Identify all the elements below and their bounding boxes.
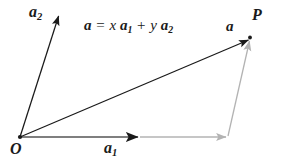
label-a1-base: a <box>104 139 112 156</box>
vector-decomposition-figure: a = x a1 + y a2 a2 a1 a P O <box>0 0 284 167</box>
label-a2-base: a <box>29 3 37 20</box>
equation-scalar-x: x <box>109 17 116 33</box>
equation-vector-a2-subscript: 2 <box>168 24 173 35</box>
equation-scalar-y: y <box>150 17 157 33</box>
equation-lhs: a <box>84 17 92 33</box>
equation-vector-a1: a1 <box>120 17 132 33</box>
label-origin-o: O <box>10 141 22 157</box>
origin-point-dot <box>18 135 22 139</box>
equation-equals-sign: = <box>95 17 105 33</box>
ghost-basis2-translated <box>228 41 250 136</box>
label-basis-vector-a2: a2 <box>29 4 42 23</box>
resultant-vector-a <box>20 40 249 137</box>
label-a2-subscript: 2 <box>37 11 42 22</box>
point-p-dot <box>248 36 252 40</box>
label-a1-subscript: 1 <box>112 147 117 158</box>
equation-vector-a2: a2 <box>161 17 173 33</box>
basis-vector-a2 <box>20 16 59 137</box>
equation-vector-a1-subscript: 1 <box>127 24 132 35</box>
decomposition-equation: a = x a1 + y a2 <box>84 18 173 35</box>
label-resultant-vector-a: a <box>226 19 234 34</box>
label-basis-vector-a1: a1 <box>104 140 117 159</box>
equation-plus-sign: + <box>136 17 146 33</box>
label-point-p: P <box>252 7 262 23</box>
